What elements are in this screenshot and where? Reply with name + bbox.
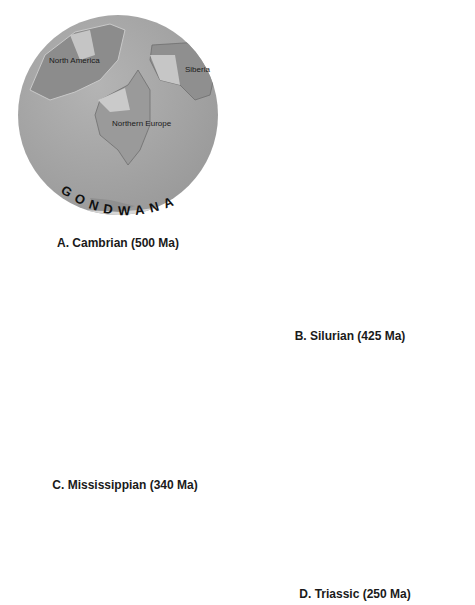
globe-panel-a: North America Siberia Northern Europe GO… <box>18 15 220 230</box>
label-northern-europe-a: Northern Europe <box>112 119 172 128</box>
label-siberia-a: Siberia <box>185 65 210 74</box>
continental-drift-figure: North America Siberia Northern Europe GO… <box>0 0 475 605</box>
label-north-america-a: North America <box>49 56 100 65</box>
caption-panel-a: A. Cambrian (500 Ma) <box>18 236 218 250</box>
caption-panel-c: C. Mississippian (340 Ma) <box>25 478 225 492</box>
figure-canvas: North America Siberia Northern Europe GO… <box>0 0 475 605</box>
caption-panel-d: D. Triassic (250 Ma) <box>255 587 455 601</box>
caption-panel-b: B. Silurian (425 Ma) <box>250 329 450 343</box>
